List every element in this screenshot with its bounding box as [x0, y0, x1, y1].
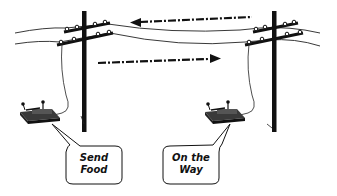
- left-pole: [57, 11, 113, 132]
- message-line-1: On the: [163, 152, 219, 164]
- right-pole: [245, 11, 303, 132]
- message-on-the-way: On the Way: [163, 152, 219, 176]
- arrowhead-left-icon: [130, 18, 141, 27]
- message-line-1: Send: [66, 152, 122, 164]
- telegraph-key-icon: [205, 100, 245, 124]
- message-line-2: Food: [66, 164, 122, 176]
- arrow-left-to-right: [98, 54, 221, 63]
- left-drop-wire: [50, 44, 68, 116]
- arrow-right-to-left: [130, 17, 252, 27]
- right-drop-wire: [236, 44, 254, 116]
- right-ground-wire: [267, 124, 272, 128]
- message-line-2: Way: [163, 164, 219, 176]
- telegraph-key-icon: [20, 100, 60, 124]
- arrowhead-right-icon: [210, 54, 221, 63]
- message-send-food: Send Food: [66, 152, 122, 176]
